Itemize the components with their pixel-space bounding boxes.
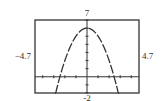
xmin-label: −4.7 (15, 51, 32, 61)
ymin-label: -2 (83, 93, 91, 101)
ymax-label: 7 (85, 8, 90, 18)
xmax-label: 4.7 (142, 51, 154, 61)
calculator-graph: 7 -2 −4.7 4.7 (0, 0, 162, 101)
